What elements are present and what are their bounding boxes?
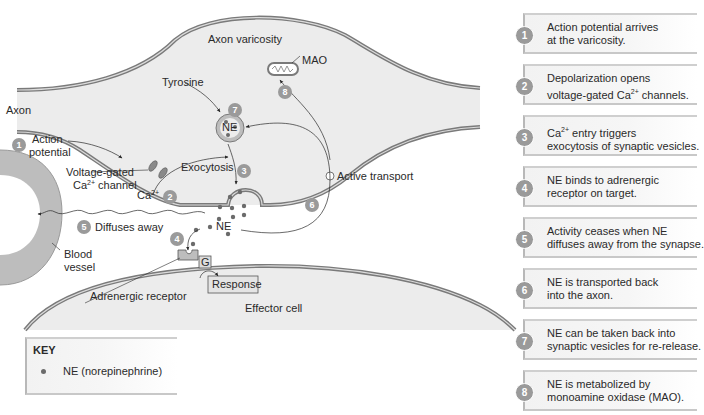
step-number-badge: 8	[515, 383, 534, 402]
step-5: 5 Activity ceases when NEdiffuses away f…	[523, 217, 697, 258]
active-transport-label: Active transport	[337, 170, 413, 182]
svg-text:7: 7	[232, 105, 237, 115]
badge-7: 7	[228, 103, 242, 117]
axon-varicosity-label: Axon varicosity	[208, 33, 282, 45]
badge-8: 8	[278, 85, 292, 99]
step-number-badge: 4	[515, 179, 534, 198]
key-title: KEY	[33, 344, 56, 356]
key-item-ne: NE (norepinephrine)	[63, 365, 162, 377]
step-text: Ca2+ entry triggersexocytosis of synapti…	[547, 123, 699, 153]
svg-text:2: 2	[167, 192, 172, 202]
svg-text:4: 4	[174, 234, 179, 244]
step-number-badge: 2	[515, 77, 534, 96]
svg-text:5: 5	[81, 222, 86, 232]
blood-vessel-label-1: Blood	[64, 248, 92, 260]
ca-ion-label: Ca2+	[137, 189, 159, 201]
response-label: Response	[212, 278, 262, 290]
effector-cell-label: Effector cell	[245, 302, 302, 314]
svg-text:6: 6	[309, 200, 314, 210]
adrenergic-receptor-icon	[178, 250, 198, 260]
step-text: Activity ceases when NEdiffuses away fro…	[547, 225, 704, 251]
voltage-gated-label-1: Voltage-gated	[66, 166, 134, 178]
step-text: NE can be taken back intosynaptic vesicl…	[547, 327, 701, 353]
step-7: 7 NE can be taken back intosynaptic vesi…	[523, 319, 697, 360]
step-number-badge: 6	[515, 281, 534, 300]
badge-1: 1	[12, 138, 26, 152]
step-1: 1 Action potential arrivesat the varicos…	[523, 13, 697, 54]
step-3: 3 Ca2+ entry triggersexocytosis of synap…	[523, 115, 697, 156]
diffuses-away-label: Diffuses away	[95, 221, 164, 233]
step-text: Depolarization opensvoltage-gated Ca2+ c…	[547, 72, 689, 102]
badge-2: 2	[163, 190, 177, 204]
step-2: 2 Depolarization opensvoltage-gated Ca2+…	[523, 64, 697, 105]
svg-text:3: 3	[241, 166, 246, 176]
blood-vessel-label-2: vessel	[64, 261, 95, 273]
step-number-badge: 5	[515, 230, 534, 249]
ne-dot-icon	[41, 369, 46, 374]
vesicle-ne-label: NE	[222, 121, 237, 133]
exocytosis-label: Exocytosis	[181, 161, 234, 173]
step-text: NE binds to adrenergicreceptor on target…	[547, 174, 659, 200]
step-text: Action potential arrivesat the varicosit…	[547, 21, 658, 47]
key-legend: KEY NE (norepinephrine)	[25, 337, 177, 395]
tyrosine-label: Tyrosine	[162, 76, 204, 88]
badge-6: 6	[305, 198, 319, 212]
step-6: 6 NE is transported backinto the axon.	[523, 268, 697, 309]
steps-panel: 1 Action potential arrivesat the varicos…	[523, 13, 697, 415]
step-text: NE is transported backinto the axon.	[547, 276, 658, 302]
badge-3: 3	[237, 164, 251, 178]
mao-label: MAO	[302, 54, 328, 66]
svg-text:1: 1	[16, 140, 21, 150]
blood-vessel	[0, 150, 62, 285]
step-number-badge: 7	[515, 332, 534, 351]
step-number-badge: 3	[515, 128, 534, 147]
voltage-gated-label-2: Ca2+ channel	[73, 179, 137, 191]
action-potential-label-2: potential	[29, 146, 71, 158]
axon-label: Axon	[6, 104, 31, 116]
badge-5: 5	[77, 220, 91, 234]
step-number-badge: 1	[515, 26, 534, 45]
svg-text:8: 8	[282, 87, 287, 97]
cleft-ne-label: NE	[216, 220, 231, 232]
adrenergic-receptor-label: Adrenergic receptor	[90, 290, 187, 302]
step-8: 8 NE is metabolized bymonoamine oxidase …	[523, 370, 697, 411]
step-4: 4 NE binds to adrenergicreceptor on targ…	[523, 166, 697, 207]
g-protein-label: G	[201, 256, 210, 268]
step-text: NE is metabolized bymonoamine oxidase (M…	[547, 378, 684, 404]
badge-4: 4	[170, 232, 184, 246]
mitochondrion-icon	[268, 63, 298, 75]
action-potential-label-1: Action	[32, 133, 63, 145]
